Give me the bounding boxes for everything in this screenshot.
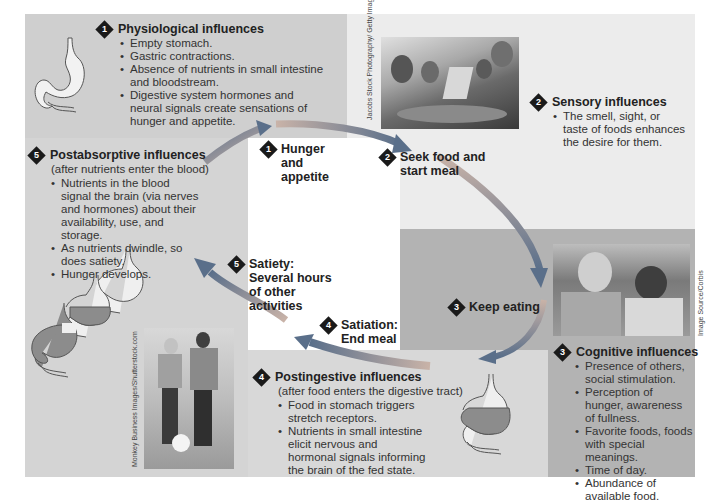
step-3-diamond-icon: 3 xyxy=(447,298,465,316)
photo-credit-postabsorptive: Monkey Business Images/Shutterstock.com xyxy=(131,327,138,467)
step-5-diamond-icon: 5 xyxy=(27,146,45,164)
step-2-diamond-icon: 2 xyxy=(529,93,547,111)
cognitive-list: Presence of others, social stimulation. … xyxy=(575,360,693,503)
postingestive-heading: 4 Postingestive influences xyxy=(255,370,422,384)
physiological-heading: 1 Physiological influences xyxy=(98,22,264,36)
list-item: Empty stomach. xyxy=(120,37,325,50)
postingestive-list: Food in stomach triggers stretch recepto… xyxy=(278,399,428,477)
sensory-list: The smell, sight, or taste of foods enha… xyxy=(553,110,688,149)
list-item: Food in stomach triggers stretch recepto… xyxy=(278,399,428,425)
list-item: Nutrients in small intestine elicit nerv… xyxy=(278,425,428,477)
postabsorptive-list: Nutrients in the blood signal the brain … xyxy=(51,177,201,281)
step-4-diamond-icon: 4 xyxy=(252,368,270,386)
cycle-step-satiety: 5 Satiety: Several hours of other activi… xyxy=(230,257,342,313)
list-item: Gastric contractions. xyxy=(120,50,325,63)
photo-couple-eating xyxy=(553,244,690,336)
cycle-step-seek-food: 2 Seek food and start meal xyxy=(381,150,491,178)
empty-stomach-icon xyxy=(32,36,92,116)
photo-credit-cognitive: Image Source/Corbis xyxy=(697,244,704,336)
full-stomach-icon xyxy=(455,372,525,462)
postabsorptive-subtitle: (after nutrients enter the blood) xyxy=(51,163,209,175)
list-item: Absence of nutrients in small intestine … xyxy=(120,63,325,89)
step-3-diamond-icon: 3 xyxy=(553,343,571,361)
list-item: Perception of hunger, awareness of fulln… xyxy=(575,386,693,425)
list-item: Presence of others, social stimulation. xyxy=(575,360,693,386)
step-2-diamond-icon: 2 xyxy=(378,148,396,166)
list-item: Abundance of available food. xyxy=(575,477,693,503)
list-item: Time of day. xyxy=(575,464,693,477)
photo-diners-reading-menu xyxy=(381,37,519,129)
cycle-step-satiation: 4 Satiation: End meal xyxy=(322,318,402,346)
step-4-diamond-icon: 4 xyxy=(319,316,337,334)
cycle-step-hunger: 1 Hunger and appetite xyxy=(262,142,342,184)
list-item: The smell, sight, or taste of foods enha… xyxy=(553,110,688,149)
photo-couple-walking-dog xyxy=(144,328,234,469)
postabsorptive-heading: 5 Postabsorptive influences xyxy=(30,148,206,162)
sensory-heading: 2 Sensory influences xyxy=(532,95,667,109)
list-item: Favorite foods, foods with special meani… xyxy=(575,425,693,464)
list-item: Digestive system hormones and neural sig… xyxy=(120,89,325,128)
list-item: As nutrients dwindle, so does satiety. xyxy=(51,242,201,268)
cycle-step-keep-eating: 3 Keep eating xyxy=(450,300,570,314)
cognitive-heading: 3 Cognitive influences xyxy=(556,345,698,359)
step-1-diamond-icon: 1 xyxy=(95,20,113,38)
list-item: Nutrients in the blood signal the brain … xyxy=(51,177,201,242)
list-item: Hunger develops. xyxy=(51,268,201,281)
step-5-diamond-icon: 5 xyxy=(227,255,245,273)
photo-credit-sensory: Jacobs Stock Photography/ Getty Images xyxy=(366,25,373,120)
postingestive-subtitle: (after food enters the digestive tract) xyxy=(278,385,463,397)
physiological-list: Empty stomach. Gastric contractions. Abs… xyxy=(120,37,325,128)
step-1-diamond-icon: 1 xyxy=(259,140,277,158)
